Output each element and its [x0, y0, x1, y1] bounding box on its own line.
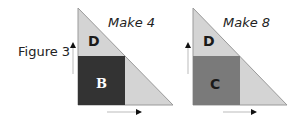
panel-make-4: Make 4 D B [73, 8, 173, 112]
square-label: B [96, 76, 107, 91]
panel-make-8: Make 8 D C [188, 8, 287, 112]
region-d-label: D [203, 33, 215, 49]
panel-title: Make 8 [223, 15, 270, 30]
region-d-label: D [88, 33, 100, 49]
panel-title: Make 4 [108, 15, 155, 30]
diagram-canvas: Make 4 D B Make 8 D C [0, 0, 305, 126]
square-label: C [210, 76, 220, 92]
